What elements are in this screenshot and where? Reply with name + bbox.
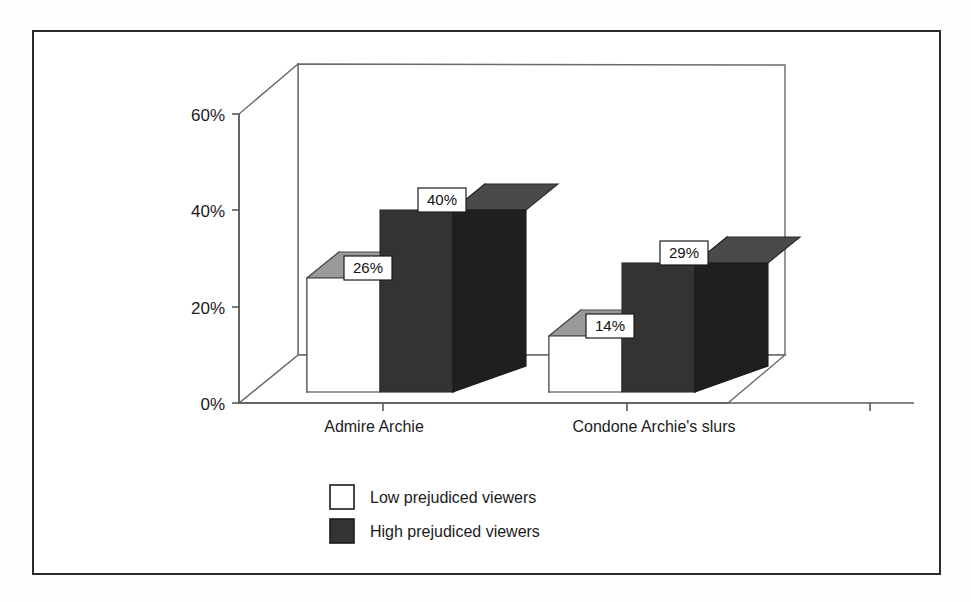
value-label-high-2: 29% [660,241,708,265]
y-tick-label-0: 0% [200,395,225,414]
bar-high-1-depth [453,210,526,392]
svg-text:14%: 14% [595,317,625,334]
legend-swatch-low [330,485,354,509]
left-wall [239,64,298,403]
legend-label-high: High prejudiced viewers [370,523,540,540]
value-label-low-1: 26% [344,256,392,280]
chart-plot-area: 60% 40% 20% 0% [34,32,943,577]
y-tick-label-60: 60% [191,106,225,125]
legend-label-low: Low prejudiced viewers [370,489,536,506]
bar-high-1-face [380,210,453,392]
chart-screenshot: 60% 40% 20% 0% [0,0,971,602]
chart-frame: 60% 40% 20% 0% [32,30,941,575]
bar-low-1-face [307,278,380,392]
legend-swatch-high [330,519,354,543]
y-tick-label-20: 20% [191,299,225,318]
x-axis [239,403,914,411]
y-axis: 60% 40% 20% 0% [191,106,239,414]
category-label-1: Admire Archie [324,418,424,435]
svg-text:29%: 29% [669,244,699,261]
svg-text:26%: 26% [353,259,383,276]
value-label-high-1: 40% [418,188,466,212]
chart-legend: Low prejudiced viewers High prejudiced v… [330,485,540,543]
bar-low-2-face [549,336,622,392]
category-label-2: Condone Archie's slurs [572,418,735,435]
svg-text:40%: 40% [427,191,457,208]
y-tick-label-40: 40% [191,202,225,221]
value-label-low-2: 14% [586,314,634,338]
legend-item-low: Low prejudiced viewers [330,485,536,509]
legend-item-high: High prejudiced viewers [330,519,540,543]
